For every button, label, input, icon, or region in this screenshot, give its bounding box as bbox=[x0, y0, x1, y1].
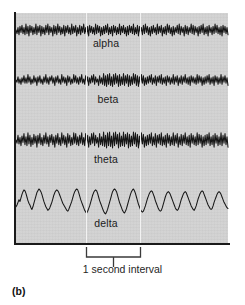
band-label-alpha: alpha bbox=[76, 37, 136, 49]
y-axis-line bbox=[14, 12, 16, 244]
panel-label: (b) bbox=[12, 285, 25, 297]
eeg-figure: alpha beta theta delta 1 second interval… bbox=[0, 0, 245, 305]
eeg-trace-delta bbox=[16, 189, 228, 214]
band-label-theta: theta bbox=[76, 153, 136, 165]
eeg-trace-alpha bbox=[16, 24, 228, 36]
x-axis-line bbox=[14, 243, 230, 245]
interval-caption: 1 second interval bbox=[0, 263, 245, 275]
band-label-delta: delta bbox=[76, 217, 136, 229]
band-label-beta: beta bbox=[78, 93, 138, 105]
interval-marker-line-end bbox=[140, 13, 141, 243]
eeg-trace-theta bbox=[16, 132, 228, 148]
eeg-trace-beta bbox=[16, 74, 228, 87]
